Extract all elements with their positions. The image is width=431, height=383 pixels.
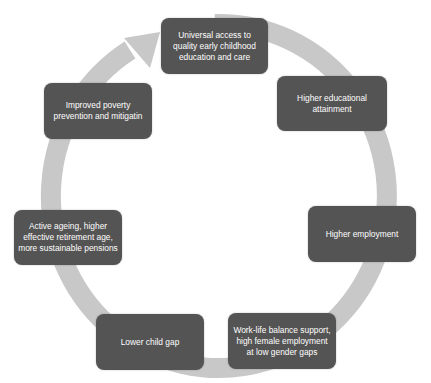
- node-label: Higher educational attainment: [295, 93, 369, 115]
- node-label: Lower child gap: [121, 337, 180, 348]
- node-label: Improved poverty prevention and mitigati…: [48, 100, 148, 122]
- node-universal-access: Universal access to quality early childh…: [161, 18, 268, 74]
- node-label: Work-life balance support, high female e…: [232, 325, 332, 358]
- node-label: Active ageing, higher effective retireme…: [18, 221, 118, 254]
- node-active-ageing: Active ageing, higher effective retireme…: [14, 210, 122, 265]
- node-work-life-balance: Work-life balance support, high female e…: [228, 313, 336, 369]
- node-higher-educational-attainment: Higher educational attainment: [277, 76, 387, 131]
- node-higher-employment: Higher employment: [308, 206, 416, 262]
- node-improved-poverty-prevention: Improved poverty prevention and mitigati…: [44, 83, 152, 139]
- node-lower-child-gap: Lower child gap: [96, 314, 204, 370]
- node-label: Universal access to quality early childh…: [167, 30, 262, 63]
- node-label: Higher employment: [326, 229, 399, 240]
